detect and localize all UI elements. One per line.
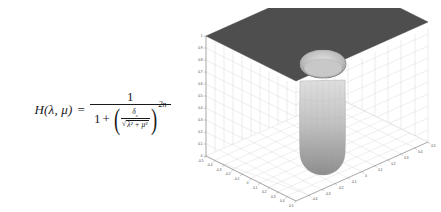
y-tick-label: 0 [365, 174, 367, 178]
z-tick-label: 0 [201, 154, 203, 158]
z-tick-label: 0.6 [198, 82, 203, 86]
x-tick-label: 0.1 [253, 186, 258, 190]
y-tick-label: 0.5 [431, 144, 436, 148]
exponent: 2n [159, 101, 167, 109]
z-tick-label: 0.1 [198, 142, 203, 146]
x-tick-label: 0.3 [271, 195, 276, 199]
outer-numerator: 1 [121, 90, 140, 104]
inner-numerator: δc [130, 108, 140, 118]
y-tick-label: 0.1 [378, 168, 383, 172]
equation: H(λ, μ) = 1 1 + ( δc [34, 90, 170, 130]
x-tick-label: 0.5 [289, 204, 294, 208]
equals-sign: = [78, 103, 85, 116]
z-tick-label: 0.2 [198, 130, 203, 134]
inner-denominator: √ λ² + μ² [121, 120, 150, 129]
y-tick-label: 0.3 [404, 156, 409, 160]
paren-open: ( [114, 107, 120, 130]
delta-subscript: c [136, 113, 138, 118]
z-tick-label: 0.8 [198, 58, 203, 62]
z-tick-label: 0.3 [198, 118, 203, 122]
y-tick-label: -0.3 [325, 192, 331, 196]
x-tick-label: 0.4 [280, 199, 285, 203]
x-tick-label: -0.3 [216, 168, 222, 172]
z-tick-label: 0.4 [198, 106, 203, 110]
z-axis-ticks: 0 0.1 0.2 0.3 0.4 0.5 0.6 0.7 0.8 0.9 1 [198, 34, 206, 158]
formula-block: H(λ, μ) = 1 1 + ( δc [10, 78, 195, 142]
surface-plot: 0 0.1 0.2 0.3 0.4 0.5 0.6 0.7 0.8 0.9 1 [196, 8, 439, 208]
x-tick-label: 0 [247, 181, 249, 185]
z-tick-label: 0.9 [198, 46, 203, 50]
surface-plot-svg: 0 0.1 0.2 0.3 0.4 0.5 0.6 0.7 0.8 0.9 1 [196, 8, 439, 208]
funnel-rim [300, 50, 346, 78]
y-tick-label: 0.4 [418, 150, 423, 154]
outer-fraction: 1 1 + ( δc √ λ² + [90, 90, 171, 130]
outer-denominator: 1 + ( δc √ λ² + μ² [90, 105, 171, 130]
z-tick-label: 1 [201, 34, 203, 38]
figure-panel: H(λ, μ) = 1 1 + ( δc [0, 0, 441, 212]
x-tick-label: 0.2 [262, 190, 267, 194]
z-tick-label: 0.5 [198, 94, 203, 98]
x-tick-label: -0.2 [225, 172, 231, 176]
y-tick-label: -0.4 [312, 197, 318, 201]
y-tick-label: -0.1 [351, 180, 357, 184]
y-tick-label: 0.2 [391, 162, 396, 166]
x-tick-label: -0.1 [234, 177, 240, 181]
plus-sign: + [102, 112, 109, 125]
x-tick-label: -0.4 [207, 163, 213, 167]
y-tick-label: -0.2 [338, 186, 344, 190]
radicand: λ² + μ² [126, 120, 148, 129]
parenthesized-group: ( δc √ λ² + μ² ) 2n [112, 107, 167, 130]
inner-fraction: δc √ λ² + μ² [121, 108, 150, 128]
paren-close: ) [150, 107, 156, 130]
funnel-surface [300, 80, 346, 175]
equation-lhs: H(λ, μ) [34, 103, 72, 116]
denominator-one: 1 [94, 112, 101, 125]
z-tick-label: 0.7 [198, 70, 203, 74]
x-tick-label: -0.5 [198, 159, 204, 163]
